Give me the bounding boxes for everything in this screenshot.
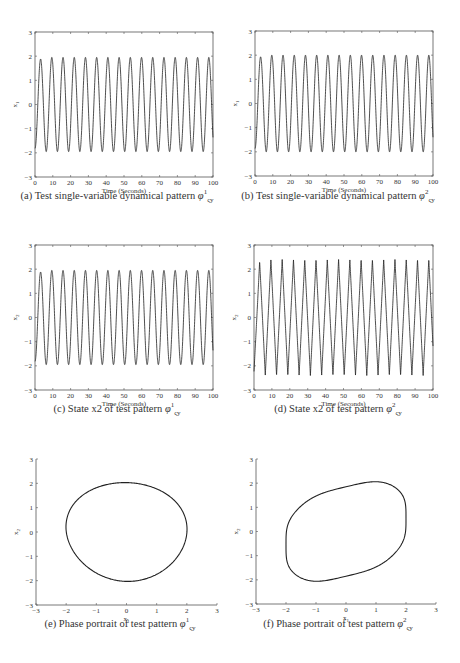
caption-c: (c) State x2 of test pattern φ1ςy: [54, 401, 181, 417]
x-tick-label: 70: [156, 392, 164, 400]
data-curve: [286, 482, 406, 582]
y-tick-label: 2: [250, 480, 254, 488]
x-tick-label: 70: [156, 179, 164, 187]
y-tick-label: 3: [29, 29, 33, 37]
y-tick-label: −2: [25, 149, 33, 157]
data-curve: [66, 483, 187, 582]
data-curve: [254, 260, 433, 376]
x-tick-label: 50: [340, 392, 348, 400]
y-tick-label: −1: [25, 338, 33, 346]
y-axis-label: x1: [11, 101, 20, 108]
x-tick-label: 2: [185, 607, 189, 615]
x-tick-label: 1: [155, 607, 159, 615]
x-tick-label: −3: [252, 606, 260, 614]
x-tick-label: 100: [428, 178, 439, 186]
x-tick-label: 60: [358, 392, 366, 400]
plot-frame: [255, 31, 433, 176]
x-tick-label: −2: [62, 607, 70, 615]
chart-panel-a: 0102030405060708090100−3−2−10123Time (Se…: [11, 29, 219, 196]
y-tick-label: 1: [30, 504, 34, 512]
x-tick-label: 10: [269, 178, 277, 186]
x-tick-label: 100: [208, 392, 219, 400]
y-tick-label: 1: [249, 76, 253, 84]
x-tick-label: 2: [404, 606, 408, 614]
x-tick-label: 60: [138, 392, 146, 400]
x-tick-label: 10: [49, 179, 57, 187]
x-tick-label: 90: [412, 178, 420, 186]
y-tick-label: 3: [249, 28, 253, 36]
y-tick-label: −2: [26, 577, 34, 585]
x-tick-label: −1: [312, 606, 320, 614]
y-tick-label: −3: [25, 174, 33, 182]
y-tick-label: −1: [244, 338, 252, 346]
x-tick-label: 0: [33, 392, 37, 400]
y-tick-label: 1: [248, 290, 252, 298]
y-tick-label: −2: [245, 148, 253, 156]
y-tick-label: 0: [249, 100, 253, 108]
caption-a: (a) Test single-variable dynamical patte…: [21, 188, 214, 204]
x-tick-label: 20: [286, 392, 294, 400]
x-tick-label: 40: [322, 392, 330, 400]
x-tick-label: 80: [394, 178, 402, 186]
x-tick-label: 60: [138, 179, 146, 187]
x-tick-label: 80: [174, 392, 182, 400]
x-tick-label: 0: [344, 606, 348, 614]
chart-panel-e: −3−2−10123−3−2−10123x1x2: [12, 456, 219, 624]
x-tick-label: 0: [33, 179, 37, 187]
y-tick-label: 1: [29, 77, 33, 85]
caption-e: (e) Phase portrait of test pattern φ1ςy: [45, 616, 196, 632]
y-axis-label: x2: [230, 314, 239, 321]
y-tick-label: 2: [29, 266, 33, 274]
y-tick-label: −2: [244, 362, 252, 370]
y-tick-label: −3: [244, 387, 252, 395]
x-tick-label: 0: [125, 607, 129, 615]
x-tick-label: 50: [341, 178, 349, 186]
y-axis-label: x1: [231, 100, 240, 107]
chart-panel-b: 0102030405060708090100−3−2−10123Time (Se…: [231, 28, 439, 195]
x-tick-label: 3: [434, 606, 438, 614]
y-tick-label: 2: [30, 480, 34, 488]
x-tick-label: 90: [412, 392, 420, 400]
caption-b: (b) Test single-variable dynamical patte…: [241, 188, 434, 204]
x-tick-label: 20: [67, 392, 75, 400]
x-tick-label: 50: [121, 392, 129, 400]
x-tick-label: 80: [174, 179, 182, 187]
plot-frame: [35, 32, 213, 177]
x-tick-label: 0: [253, 178, 257, 186]
y-tick-label: −2: [246, 576, 254, 584]
y-tick-label: −1: [246, 552, 254, 560]
y-tick-label: −1: [25, 125, 33, 133]
y-axis-label: x2: [12, 529, 21, 536]
x-tick-label: 20: [67, 179, 75, 187]
y-tick-label: 3: [248, 242, 252, 250]
y-tick-label: 2: [248, 266, 252, 274]
x-tick-label: 40: [323, 178, 331, 186]
y-axis-label: x2: [232, 528, 241, 535]
y-tick-label: 0: [30, 529, 34, 537]
y-tick-label: −3: [245, 173, 253, 181]
y-tick-label: 0: [248, 314, 252, 322]
x-tick-label: 1: [374, 606, 378, 614]
caption-d: (d) State x2 of test pattern φ2ςy: [274, 401, 402, 417]
data-curve: [255, 55, 433, 152]
y-tick-label: −3: [246, 601, 254, 609]
y-tick-label: 2: [29, 53, 33, 61]
x-tick-label: −1: [93, 607, 101, 615]
y-tick-label: −3: [26, 602, 34, 610]
x-tick-label: 20: [287, 178, 295, 186]
x-tick-label: 30: [305, 178, 313, 186]
caption-f: (f) Phase portrait of test pattern φ2ςy: [263, 616, 413, 632]
y-tick-label: −2: [25, 362, 33, 370]
x-tick-label: 90: [192, 179, 200, 187]
x-tick-label: 100: [428, 392, 439, 400]
x-tick-label: 10: [268, 392, 276, 400]
y-tick-label: −3: [25, 387, 33, 395]
y-tick-label: 3: [29, 242, 33, 250]
y-tick-label: 1: [250, 504, 254, 512]
x-tick-label: 30: [85, 179, 93, 187]
x-tick-label: 70: [376, 178, 384, 186]
x-tick-label: −3: [32, 607, 40, 615]
x-tick-label: 3: [215, 607, 219, 615]
y-tick-label: 1: [29, 290, 33, 298]
x-tick-label: 80: [394, 392, 402, 400]
